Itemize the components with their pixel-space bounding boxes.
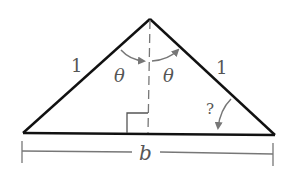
side-right-label: 1 — [216, 57, 227, 78]
altitude-dashed-line — [148, 20, 150, 133]
side-left-label: 1 — [71, 55, 82, 76]
theta-right-label: θ — [163, 65, 174, 86]
left-side — [23, 19, 150, 133]
base-label: b — [139, 141, 152, 165]
base-angle-label: ? — [206, 100, 214, 118]
triangle-diagram: 1 1 θ θ ? b — [0, 0, 289, 175]
base — [23, 133, 275, 135]
right-angle-arrow — [152, 50, 178, 61]
left-angle-arrow — [121, 50, 144, 61]
base-angle-arrow — [218, 99, 231, 128]
right-angle-marker — [127, 113, 148, 133]
theta-left-label: θ — [114, 65, 125, 86]
